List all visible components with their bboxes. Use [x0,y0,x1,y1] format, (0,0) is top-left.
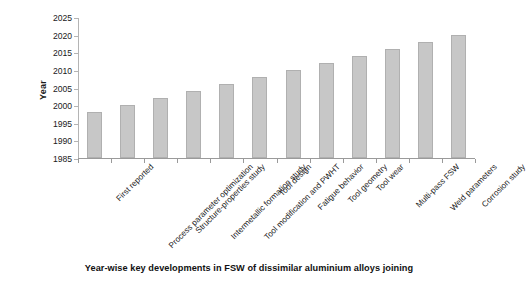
x-tick-mark [442,159,443,163]
x-tick-mark [78,159,79,163]
y-tick-mark [74,71,78,72]
bar [286,70,301,158]
y-tick-mark [74,141,78,142]
x-tick-mark [310,159,311,163]
x-tick-label: Structure-properties study [194,163,266,235]
x-tick-mark [343,159,344,163]
x-tick-mark [210,159,211,163]
x-tick-mark [376,159,377,163]
y-tick-mark [74,36,78,37]
bar [186,91,201,158]
y-tick-label: 2015 [53,49,72,58]
bar [352,56,367,158]
x-tick-mark [409,159,410,163]
bar [319,63,334,158]
y-tick-label: 1995 [53,119,72,128]
x-tick-mark [243,159,244,163]
bar [385,49,400,158]
bar [252,77,267,158]
plot-area: 198519901995200020052010201520202025 [78,18,475,159]
bar [418,42,433,158]
x-tick-mark [475,159,476,163]
x-tick-mark [177,159,178,163]
y-axis-line [78,18,79,159]
y-tick-label: 2005 [53,84,72,93]
y-tick-mark [74,106,78,107]
y-tick-label: 1990 [53,137,72,146]
y-tick-mark [74,18,78,19]
x-tick-label: Process parameter optimization [167,163,254,250]
figure-caption: Year-wise key developments in FSW of dis… [0,263,498,273]
x-tick-mark [144,159,145,163]
y-tick-label: 2020 [53,31,72,40]
bar [120,105,135,158]
bar [219,84,234,158]
y-tick-label: 1985 [53,155,72,164]
y-tick-label: 2000 [53,102,72,111]
bar [451,35,466,158]
bar [87,112,102,158]
x-tick-mark [277,159,278,163]
y-tick-label: 2025 [53,14,72,23]
y-tick-label: 2010 [53,67,72,76]
bar [153,98,168,158]
y-tick-mark [74,53,78,54]
y-tick-mark [74,89,78,90]
x-tick-mark [111,159,112,163]
y-tick-mark [74,124,78,125]
x-tick-label: First reported [115,163,155,203]
